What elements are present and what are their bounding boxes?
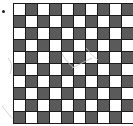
dark-square [74, 76, 85, 87]
light-square [74, 40, 85, 51]
dark-square [62, 16, 73, 27]
checkerboard-grid [13, 3, 133, 124]
dark-square [38, 16, 49, 27]
dark-square [122, 52, 133, 63]
dark-square [14, 88, 25, 99]
dark-square [26, 4, 37, 15]
light-square [74, 88, 85, 99]
light-square [14, 4, 25, 15]
dark-square [86, 40, 97, 51]
light-square [26, 88, 37, 99]
light-square [98, 16, 109, 27]
dark-square [86, 88, 97, 99]
light-square [14, 52, 25, 63]
dark-square [26, 100, 37, 111]
light-square [122, 64, 133, 75]
light-square [86, 4, 97, 15]
dark-square [14, 16, 25, 27]
light-square [50, 40, 61, 51]
light-square [62, 100, 73, 111]
dark-square [98, 52, 109, 63]
light-square [74, 16, 85, 27]
dark-square [50, 100, 61, 111]
light-square [26, 40, 37, 51]
light-square [86, 52, 97, 63]
light-square [62, 76, 73, 87]
light-square [62, 4, 73, 15]
light-square [122, 16, 133, 27]
dark-square [62, 40, 73, 51]
dark-square [74, 52, 85, 63]
dark-square [98, 100, 109, 111]
light-square [86, 100, 97, 111]
dark-square [122, 28, 133, 39]
light-square [14, 76, 25, 87]
dark-square [62, 64, 73, 75]
dark-square [14, 64, 25, 75]
light-square [38, 52, 49, 63]
light-square [38, 4, 49, 15]
light-square [38, 100, 49, 111]
light-square [74, 112, 85, 123]
dark-square [98, 28, 109, 39]
dark-square [74, 4, 85, 15]
dark-square [38, 64, 49, 75]
light-square [26, 112, 37, 123]
dark-square [14, 40, 25, 51]
dark-square [50, 52, 61, 63]
dark-square [122, 100, 133, 111]
dark-square [122, 76, 133, 87]
light-square [110, 76, 121, 87]
dark-square [74, 28, 85, 39]
light-square [26, 64, 37, 75]
dark-square [26, 28, 37, 39]
light-square [14, 100, 25, 111]
dark-square [38, 88, 49, 99]
dark-square [86, 64, 97, 75]
light-square [98, 112, 109, 123]
dark-square [38, 112, 49, 123]
bullet-dot [2, 10, 5, 13]
light-square [38, 28, 49, 39]
dark-square [110, 64, 121, 75]
dark-square [86, 112, 97, 123]
dark-square [98, 4, 109, 15]
light-square [50, 112, 61, 123]
light-square [50, 88, 61, 99]
dark-square [86, 16, 97, 27]
light-square [26, 16, 37, 27]
dark-square [26, 52, 37, 63]
light-square [86, 76, 97, 87]
light-square [110, 4, 121, 15]
light-square [86, 28, 97, 39]
light-square [122, 88, 133, 99]
light-square [14, 28, 25, 39]
light-square [62, 28, 73, 39]
dark-square [122, 4, 133, 15]
light-square [50, 64, 61, 75]
light-square [110, 52, 121, 63]
dark-square [110, 40, 121, 51]
dark-square [38, 40, 49, 51]
light-square [38, 76, 49, 87]
dark-square [98, 76, 109, 87]
light-square [98, 64, 109, 75]
light-square [50, 16, 61, 27]
light-square [74, 64, 85, 75]
light-square [98, 40, 109, 51]
dark-square [26, 76, 37, 87]
dark-square [62, 112, 73, 123]
light-square [122, 112, 133, 123]
dark-square [62, 88, 73, 99]
dark-square [110, 112, 121, 123]
dark-square [50, 4, 61, 15]
light-square [122, 40, 133, 51]
dark-square [50, 28, 61, 39]
light-square [98, 88, 109, 99]
light-square [110, 100, 121, 111]
dark-square [110, 88, 121, 99]
light-square [110, 28, 121, 39]
dark-square [14, 112, 25, 123]
light-square [62, 52, 73, 63]
dark-square [110, 16, 121, 27]
